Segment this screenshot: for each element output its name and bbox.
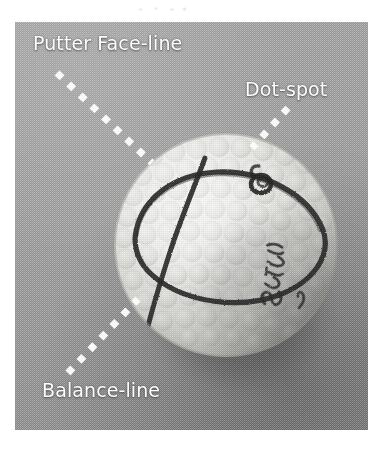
label-balance-line: Balance-line	[42, 381, 160, 400]
label-dot-spot: Dot-spot	[245, 80, 327, 99]
golf-ball-annotation-figure: Putter Face-line Dot-spot Balance-line	[0, 0, 385, 451]
scan-artifact	[135, 5, 190, 13]
golf-ball	[113, 132, 339, 358]
label-putter-face-line: Putter Face-line	[33, 34, 182, 53]
